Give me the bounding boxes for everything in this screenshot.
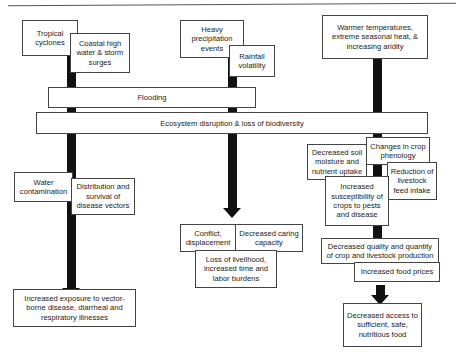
crop-phenology-box: Changes in crop phenology bbox=[366, 137, 430, 165]
top-rule bbox=[8, 3, 456, 6]
livestock-feed-box: Reduction of livestock feed intake bbox=[387, 162, 437, 200]
caring-capacity-box: Decreased caring capacity bbox=[235, 224, 303, 252]
food-outcome-box: Decreased access to sufficient, safe, nu… bbox=[343, 303, 422, 347]
soil-moisture-box: Decreased soil moisture and nutrient upt… bbox=[307, 144, 367, 180]
pest-susceptibility-box: Increased susceptibility of crops to pes… bbox=[325, 176, 389, 226]
driver-warmer-temperatures: Warmer temperatures, extreme seasonal he… bbox=[322, 15, 428, 59]
arrow-head-middle bbox=[223, 208, 241, 218]
water-contamination-box: Water contamination bbox=[14, 172, 73, 202]
production-quality-box: Decreased quality and quantity of crop a… bbox=[321, 238, 439, 264]
driver-coastal-high-water: Coastal high water & storm surges bbox=[70, 33, 130, 73]
food-prices-box: Increased food prices bbox=[354, 262, 440, 282]
livelihood-box: Loss of livelihood, increased time and l… bbox=[195, 250, 277, 288]
conflict-box: Conflict, displacement bbox=[180, 224, 236, 252]
driver-rainfall-volatility: Rainfall volatility bbox=[229, 45, 275, 77]
health-outcome-box: Increased exposure to vector-borne disea… bbox=[13, 289, 136, 327]
disease-vectors-box: Distribution and survival of disease vec… bbox=[71, 178, 135, 215]
band-flooding: Flooding bbox=[48, 87, 256, 108]
band-ecosystem: Ecosystem disruption & loss of biodivers… bbox=[36, 112, 428, 134]
